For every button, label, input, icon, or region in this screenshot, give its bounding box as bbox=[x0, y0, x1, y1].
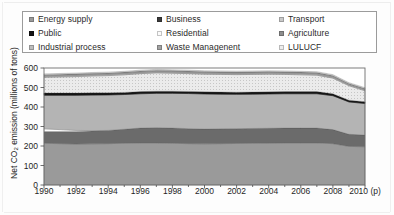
legend-swatch-icon bbox=[279, 45, 284, 50]
legend-energy-supply[interactable]: Energy supply bbox=[29, 13, 157, 26]
legend-label: LULUCF bbox=[288, 43, 321, 52]
legend-lulucf[interactable]: LULUCF bbox=[279, 41, 379, 54]
legend-residential[interactable]: Residential bbox=[157, 27, 279, 40]
area-chart-svg bbox=[0, 56, 394, 215]
legend-label: Agriculture bbox=[288, 29, 329, 38]
legend-agriculture[interactable]: Agriculture bbox=[279, 27, 379, 40]
legend-label: Public bbox=[38, 29, 61, 38]
area-series-energy-supply bbox=[44, 143, 365, 185]
stacked-area-plot bbox=[0, 56, 394, 215]
legend-transport[interactable]: Transport bbox=[279, 13, 379, 26]
legend-label: Industrial process bbox=[38, 43, 106, 52]
legend-waste-management[interactable]: Waste Managenent bbox=[157, 41, 279, 54]
plot-area-wrapper: Net CO2 emission (millions of tons) 6005… bbox=[0, 56, 394, 215]
legend-swatch-icon bbox=[29, 45, 34, 50]
legend-label: Waste Managenent bbox=[166, 43, 240, 52]
chart-legend: Energy supplyBusinessTransportPublicResi… bbox=[22, 11, 377, 53]
legend-business[interactable]: Business bbox=[157, 13, 279, 26]
legend-label: Transport bbox=[288, 15, 325, 24]
legend-swatch-icon bbox=[279, 31, 284, 36]
legend-swatch-icon bbox=[157, 31, 162, 36]
legend-public[interactable]: Public bbox=[29, 27, 157, 40]
legend-label: Energy supply bbox=[38, 15, 93, 24]
legend-swatch-icon bbox=[157, 17, 162, 22]
chart-figure: Energy supplyBusinessTransportPublicResi… bbox=[0, 0, 394, 215]
legend-label: Business bbox=[166, 15, 201, 24]
legend-industrial-process[interactable]: Industrial process bbox=[29, 41, 157, 54]
page-edge-top bbox=[4, 2, 390, 3]
legend-swatch-icon bbox=[29, 31, 34, 36]
legend-swatch-icon bbox=[279, 17, 284, 22]
legend-swatch-icon bbox=[29, 17, 34, 22]
legend-label: Residential bbox=[166, 29, 209, 38]
legend-swatch-icon bbox=[157, 45, 162, 50]
